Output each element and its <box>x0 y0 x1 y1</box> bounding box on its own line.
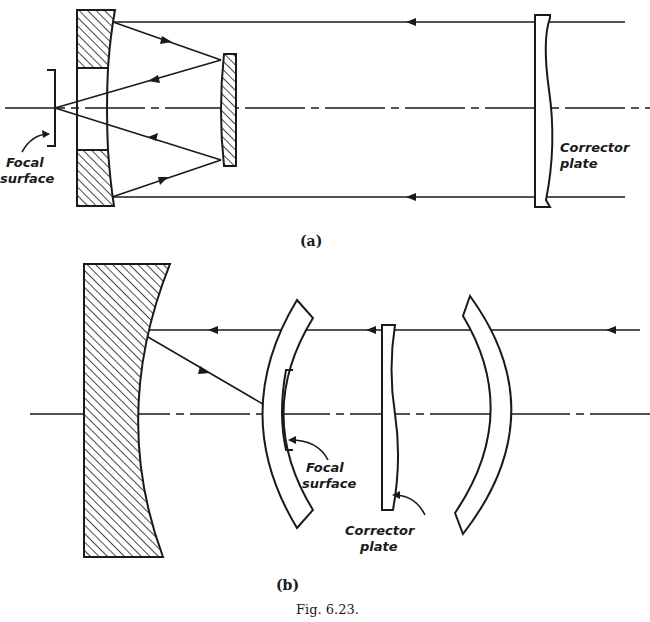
arrow-icon <box>158 177 168 185</box>
corrector-label-a: Corrector <box>560 140 631 155</box>
corrector-label-b-2: plate <box>359 539 398 554</box>
secondary-mirror-a <box>221 54 236 166</box>
optical-diagram: Focal surface Corrector plate (a) Focal … <box>0 0 650 622</box>
primary-mirror-hole-a <box>77 68 108 150</box>
focal-surface-label-b: Focal <box>306 460 344 475</box>
focal-surface-label-a-2: surface <box>0 171 55 186</box>
panel-a: Focal surface Corrector plate (a) <box>0 10 650 249</box>
arrow-icon <box>42 130 50 138</box>
corrector-plate-b <box>382 325 398 510</box>
primary-mirror-top-a <box>77 10 115 68</box>
arrow-icon <box>288 436 296 444</box>
corrector-plate-a <box>535 15 552 207</box>
arrow-icon <box>198 366 210 374</box>
arrow-icon <box>148 75 160 83</box>
meniscus-shell-right-b <box>455 296 511 534</box>
corrector-label-b: Corrector <box>345 523 416 538</box>
panel-a-label: (a) <box>300 233 322 249</box>
arrow-icon <box>606 326 616 334</box>
arrow-icon <box>366 326 376 334</box>
focal-surface-label-a: Focal <box>6 155 44 170</box>
focal-surface-label-b-2: surface <box>302 476 357 491</box>
panel-b: Focal surface Corrector plate (b) <box>30 264 650 593</box>
panel-b-label: (b) <box>276 577 299 593</box>
corrector-label-a-2: plate <box>559 156 598 171</box>
figure-caption: Fig. 6.23. <box>296 602 359 617</box>
arrow-icon <box>406 18 416 26</box>
arrow-icon <box>208 326 218 334</box>
arrow-icon <box>406 193 416 201</box>
spherical-mirror-b <box>84 264 170 557</box>
primary-mirror-bottom-a <box>77 150 114 206</box>
